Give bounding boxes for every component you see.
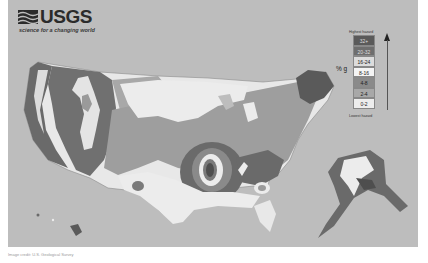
hawaii: [70, 224, 82, 236]
image-caption: Image credit: U.S. Geological Survey: [8, 252, 74, 257]
usgs-wordmark: USGS: [40, 7, 92, 27]
usgs-tagline: science for a changing world: [19, 27, 95, 33]
legend-bin: 0-2: [353, 98, 375, 109]
legend-swatches: 32+ 20-32 16-24 8-16 4-8 2-4 0-2: [353, 35, 375, 109]
legend-arrow-shaft: [387, 40, 388, 110]
legend-bottom-caption: Lowest hazard: [349, 114, 372, 118]
legend-bin: 16-24: [353, 56, 375, 67]
legend-top-caption: Highest hazard: [349, 30, 373, 34]
usgs-wave-icon: [18, 10, 38, 24]
legend-bin: 2-4: [353, 88, 375, 99]
hazard-map-frame: USGS science for a changing world Highes…: [8, 0, 418, 247]
legend-bin: 8-16: [353, 67, 375, 78]
legend-bin: 4-8: [353, 77, 375, 88]
legend-bin: 32+: [353, 35, 375, 46]
usgs-logo[interactable]: USGS science for a changing world: [18, 7, 118, 37]
hazard-legend: Highest hazard 32+ 20-32 16-24 8-16 4-8 …: [345, 28, 407, 120]
legend-unit-label: % g: [336, 65, 347, 72]
legend-bin: 20-32: [353, 46, 375, 57]
